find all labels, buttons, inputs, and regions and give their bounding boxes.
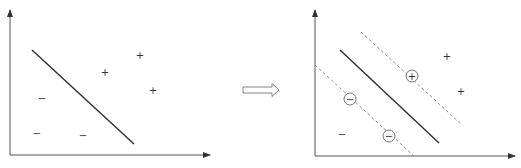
right-panel: + − − + + −	[315, 10, 515, 157]
positive-point: +	[457, 86, 465, 97]
negative-point: −	[338, 129, 346, 140]
negative-point: −	[33, 128, 41, 139]
support-vector-negative: −	[385, 131, 393, 142]
negative-point: −	[79, 130, 87, 141]
positive-point: +	[149, 85, 157, 96]
svm-diagram: + + + − − − + − − + +	[0, 0, 521, 168]
positive-samples: + + +	[101, 50, 157, 96]
left-panel: + + + − − −	[10, 10, 210, 155]
positive-point: +	[136, 50, 144, 61]
transition-arrow-icon	[243, 84, 279, 97]
negative-samples: −	[338, 129, 346, 140]
support-vectors: + − −	[344, 70, 418, 142]
support-vector-negative: −	[346, 94, 354, 105]
support-vector-positive: +	[408, 71, 416, 82]
margin-line-lower	[315, 65, 415, 157]
positive-point: +	[443, 51, 451, 62]
positive-point: +	[101, 67, 109, 78]
positive-samples: + +	[443, 51, 465, 97]
negative-samples: − − −	[33, 93, 87, 141]
negative-point: −	[38, 93, 46, 104]
